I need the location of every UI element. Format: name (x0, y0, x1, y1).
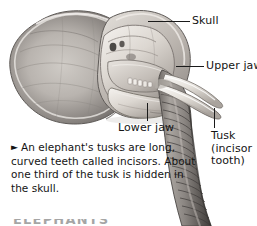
section-heading-cropped: ELEPHANTS (13, 219, 153, 226)
leader-line-upper-jaw (176, 66, 204, 67)
figure-caption: ►An elephant's tusks are long, curved te… (11, 141, 197, 195)
callout-label-tusk: Tusk (incisor tooth) (211, 130, 252, 168)
callout-label-lower-jaw: Lower jaw (118, 122, 174, 135)
leader-line-lower-jaw (147, 103, 148, 121)
callout-label-skull: Skull (192, 15, 219, 28)
callout-label-upper-jaw: Upper jaw (206, 60, 257, 73)
figure-page: Skull Upper jaw Lower jaw Tusk (incisor … (0, 0, 257, 226)
leader-line-skull (148, 21, 190, 22)
caption-text: An elephant's tusks are long, curved tee… (11, 141, 196, 194)
caption-arrow-icon: ► (11, 141, 18, 155)
section-heading-text: ELEPHANTS (13, 219, 153, 226)
leader-line-tusk (214, 108, 215, 128)
